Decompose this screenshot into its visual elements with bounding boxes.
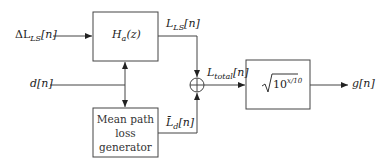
block-diagram: ΔLLS[n] d[n] Ha(z) Mean path loss genera… [0, 0, 387, 166]
filter-block-label: Ha(z) [112, 28, 141, 43]
sqrt-block-label: 10x/10 [273, 77, 302, 91]
signal-l-total-label: Ltotal[n] [207, 66, 249, 81]
input-delta-l-ls-label: ΔLLS[n] [15, 28, 57, 43]
signal-l-d-label: L̄d[n] [166, 116, 194, 131]
mean-path-loss-label: Mean path loss generator [93, 112, 158, 154]
signal-l-ls-label: LLS[n] [166, 17, 200, 32]
output-g-label: g[n] [352, 77, 375, 90]
input-d-label: d[n] [30, 77, 53, 90]
